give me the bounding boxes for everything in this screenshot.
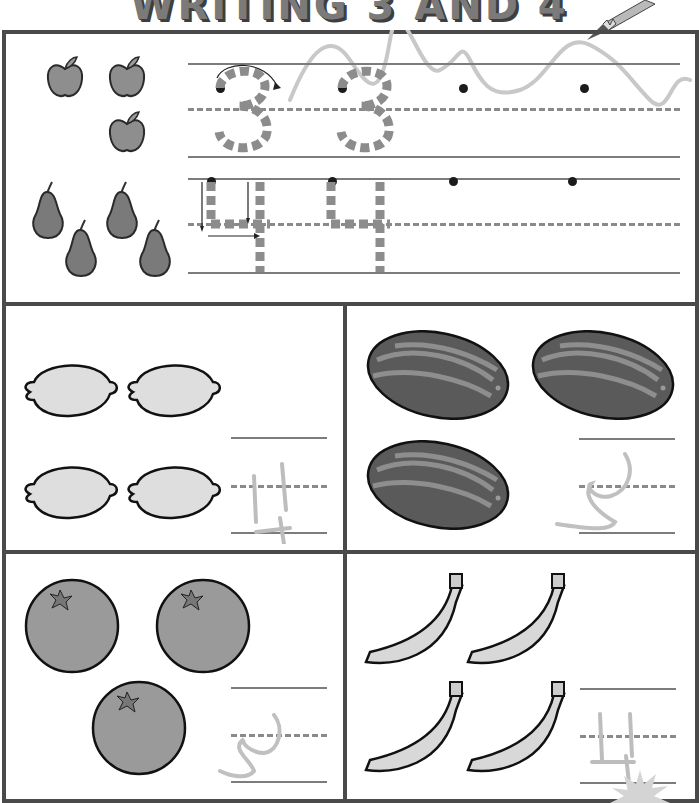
starburst-icon bbox=[610, 770, 670, 803]
apple-icon bbox=[107, 110, 147, 155]
trace-digit-3 bbox=[205, 60, 285, 158]
start-dot bbox=[580, 84, 589, 93]
handwritten-answer-4 bbox=[248, 462, 298, 544]
banana-icon bbox=[466, 572, 570, 674]
trace-digit-4 bbox=[320, 180, 400, 274]
apple-icon bbox=[45, 55, 85, 100]
lemon-icon bbox=[22, 358, 118, 426]
handwritten-answer-3 bbox=[218, 713, 288, 783]
banana-icon bbox=[364, 572, 468, 674]
watermelon-icon bbox=[365, 330, 511, 420]
handwritten-answer-3 bbox=[555, 450, 635, 540]
crayon-scribble bbox=[230, 30, 699, 120]
start-dot bbox=[449, 177, 458, 186]
lemon-icon bbox=[125, 358, 221, 426]
pear-icon bbox=[135, 216, 175, 280]
watermelon-icon bbox=[530, 330, 676, 420]
trace-digit-3 bbox=[327, 60, 407, 158]
apple-icon bbox=[107, 55, 147, 100]
orange-icon bbox=[22, 578, 122, 674]
banana-icon bbox=[466, 680, 570, 782]
watermelon-icon bbox=[365, 440, 511, 530]
orange-icon bbox=[153, 578, 253, 674]
trace-digit-4 bbox=[200, 180, 280, 274]
orange-icon bbox=[89, 680, 189, 776]
start-dot bbox=[459, 84, 468, 93]
start-dot bbox=[568, 177, 577, 186]
lemon-icon bbox=[22, 460, 118, 528]
pear-icon bbox=[61, 216, 101, 280]
lemon-icon bbox=[125, 460, 221, 528]
banana-icon bbox=[364, 680, 468, 782]
